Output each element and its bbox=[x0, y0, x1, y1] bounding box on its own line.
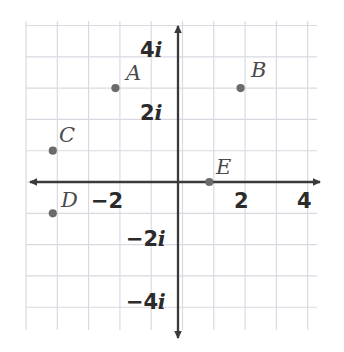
data-point-b bbox=[237, 84, 245, 92]
data-point-d bbox=[49, 209, 57, 217]
coordinate-plane-svg bbox=[0, 0, 344, 352]
complex-plane-figure: 4i 2i −2i −4i −2 2 4 A B C D E bbox=[0, 0, 344, 352]
data-point-a bbox=[111, 84, 119, 92]
data-point-c bbox=[49, 147, 57, 155]
grid-lines bbox=[26, 21, 317, 330]
data-point-e bbox=[205, 178, 213, 186]
